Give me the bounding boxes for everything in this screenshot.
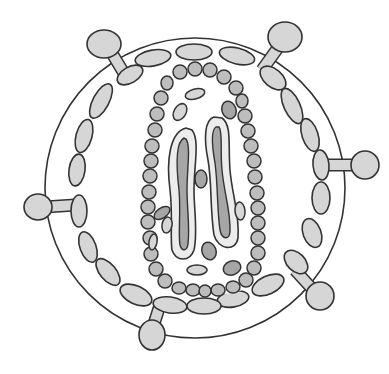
matrix-protein — [85, 80, 117, 121]
matrix-protein — [298, 216, 325, 250]
matrix-protein — [280, 246, 313, 279]
matrix-protein — [71, 195, 87, 227]
capsid-bead — [251, 231, 265, 245]
capsid-bead — [172, 282, 186, 294]
capsid-bead — [158, 274, 172, 288]
enzyme-particle — [187, 265, 207, 275]
capsid-bead — [199, 285, 211, 297]
capsid-bead — [217, 70, 231, 84]
capsid-bead — [141, 215, 155, 229]
capsid-bead — [144, 154, 158, 168]
capsid-bead — [239, 273, 253, 287]
capsid-bead — [141, 200, 155, 214]
matrix-protein — [297, 116, 323, 153]
matrix-protein — [312, 182, 330, 214]
capsid-bead — [238, 109, 252, 123]
capsid-bead — [161, 76, 173, 90]
spike-right — [328, 151, 379, 179]
matrix-protein — [67, 153, 87, 187]
capsid-bead — [251, 216, 265, 230]
rna-strand-left — [177, 138, 189, 250]
spike-knob — [139, 320, 165, 350]
capsid-bead — [142, 185, 156, 199]
spike-knob — [306, 282, 334, 310]
capsid-bead — [250, 186, 264, 200]
matrix-protein — [187, 298, 221, 314]
spike-top-right — [262, 22, 302, 70]
matrix-protein — [176, 44, 212, 60]
virus-diagram — [0, 0, 389, 374]
capsid-bead — [150, 107, 164, 121]
matrix-protein — [312, 149, 331, 180]
capsid-bead — [241, 124, 255, 138]
matrix-protein — [218, 44, 257, 68]
capsid-bead — [154, 91, 168, 105]
spike-knob — [87, 30, 121, 58]
capsid-bead — [251, 246, 265, 260]
spike-bottom-right — [295, 270, 334, 310]
enzyme-particle — [195, 170, 207, 188]
capsid-bead — [148, 123, 162, 137]
capsid-bead — [248, 170, 262, 184]
capsid-bead — [145, 139, 159, 153]
capsid-bead — [211, 284, 225, 296]
capsid-bead — [203, 63, 217, 77]
spike-knob — [24, 194, 52, 220]
spike-knob — [268, 22, 302, 52]
virus-illustration — [0, 0, 389, 374]
capsid-bead — [173, 65, 187, 79]
matrix-protein — [72, 118, 96, 155]
capsid-bead — [244, 139, 258, 153]
matrix-protein — [117, 280, 155, 311]
capsid-bead — [143, 169, 157, 183]
capsid-bead — [251, 201, 265, 215]
capsid-bead — [247, 154, 261, 168]
capsid-bead — [149, 262, 163, 276]
capsid-bead — [229, 81, 243, 95]
spike-knob — [351, 151, 379, 179]
capsid-bead — [236, 94, 248, 108]
capsid-bead — [186, 284, 200, 296]
capsid-bead — [188, 62, 202, 76]
spike-left — [24, 194, 75, 220]
capsid-bead — [226, 281, 240, 293]
